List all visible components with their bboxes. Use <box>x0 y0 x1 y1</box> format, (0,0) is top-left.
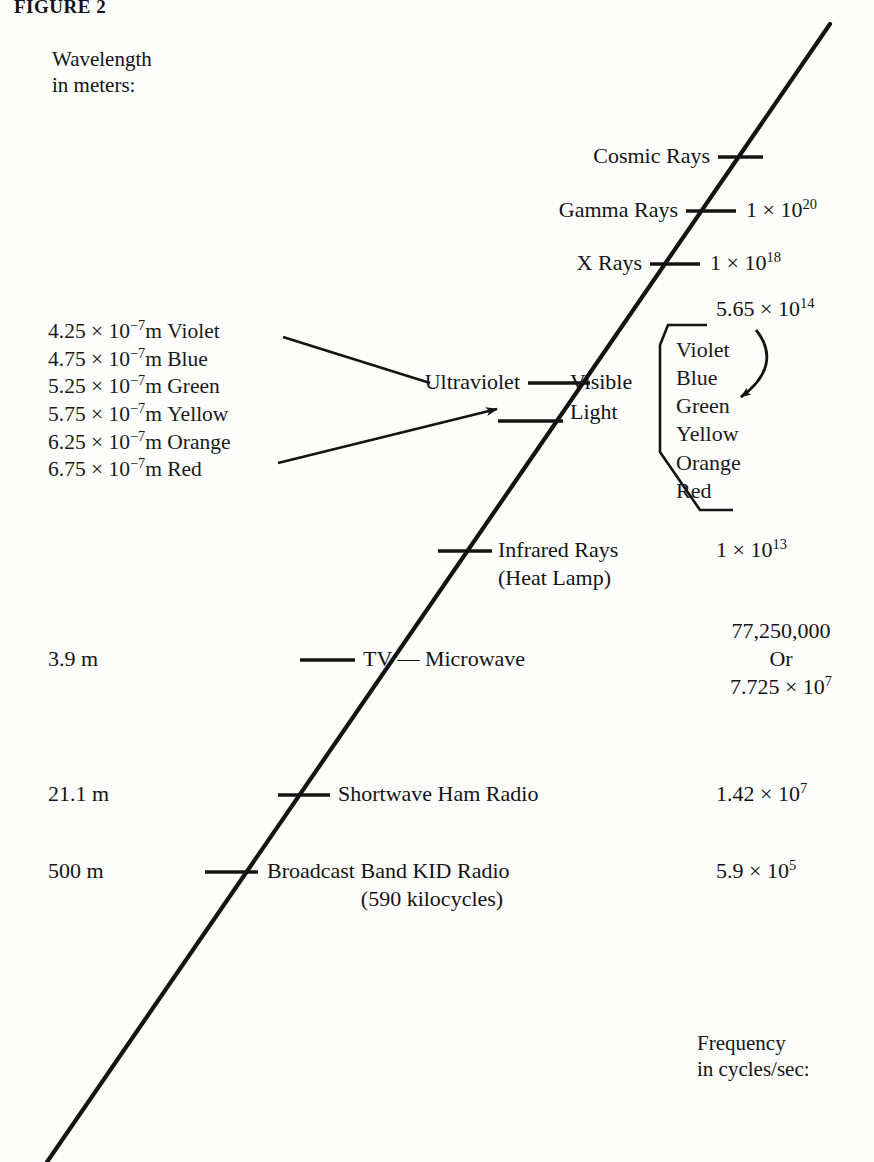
wavelength-row-yellow: 5.75 × 10−7m Yellow <box>48 401 231 429</box>
wavelength-blue-color: Blue <box>167 347 208 371</box>
wavelength-row-red: 6.75 × 10−7m Red <box>48 456 231 484</box>
spectrum-axis-line <box>47 24 830 1162</box>
wavelength-row-violet: 4.25 × 10−7m Violet <box>48 318 231 346</box>
wavelength-orange-exponent: −7 <box>130 427 145 443</box>
color-item-red: Red <box>676 477 741 505</box>
visible-light-color-list: Violet Blue Green Yellow Orange Red <box>676 336 741 505</box>
band-label-ultraviolet: Ultraviolet <box>250 369 520 395</box>
frequency-broadcast: 5.9 × 105 <box>716 858 796 884</box>
frequency-visible-light: 5.65 × 1014 <box>716 296 814 322</box>
frequency-broadcast-exponent: 5 <box>789 857 796 873</box>
wavelength-green-color: Green <box>167 374 220 398</box>
figure-canvas: FIGURE 2 Wavelengthin meters: Frequencyi… <box>0 0 874 1162</box>
frequency-gamma-rays-exponent: 20 <box>802 196 817 212</box>
wavelength-red-mantissa: 6.75 × 10 <box>48 457 130 481</box>
band-label-x-rays: X Rays <box>300 250 642 276</box>
band-sublabel-visible-light: Light <box>570 399 618 425</box>
wavelength-row-blue: 4.75 × 10−7m Blue <box>48 346 231 374</box>
frequency-axis-caption: Frequencyin cycles/sec: <box>697 1031 810 1082</box>
wavelength-green-exponent: −7 <box>130 372 145 388</box>
frequency-broadcast-mantissa: 5.9 × 10 <box>716 858 789 883</box>
wavelength-broadcast: 500 m <box>48 858 104 884</box>
spectrum-line-graphic <box>0 0 874 1162</box>
frequency-tv-microwave-mantissa: 7.725 × 10 <box>730 674 825 699</box>
wavelength-orange-unit: m <box>145 430 162 454</box>
color-item-green: Green <box>676 392 741 420</box>
wavelength-orange-mantissa: 6.25 × 10 <box>48 430 130 454</box>
frequency-tv-microwave-decimal: 77,250,000 <box>688 618 874 644</box>
band-label-broadcast: Broadcast Band KID Radio <box>267 858 510 884</box>
curved-arrow-frequency-to-green <box>741 330 767 397</box>
frequency-shortwave-exponent: 7 <box>800 780 807 796</box>
color-item-blue: Blue <box>676 364 741 392</box>
frequency-tv-microwave-scientific: 7.725 × 107 <box>688 674 874 700</box>
frequency-visible-light-mantissa: 5.65 × 10 <box>716 296 800 321</box>
frequency-gamma-rays: 1 × 1020 <box>746 197 817 223</box>
wavelength-yellow-color: Yellow <box>167 402 228 426</box>
band-sublabel-infrared: (Heat Lamp) <box>498 565 611 591</box>
wavelength-red-unit: m <box>145 457 162 481</box>
frequency-infrared: 1 × 1013 <box>716 537 787 563</box>
wavelength-green-mantissa: 5.25 × 10 <box>48 374 130 398</box>
wavelength-red-exponent: −7 <box>130 455 145 471</box>
wavelength-yellow-mantissa: 5.75 × 10 <box>48 402 130 426</box>
wavelength-blue-exponent: −7 <box>130 344 145 360</box>
wavelength-yellow-exponent: −7 <box>130 400 145 416</box>
color-item-violet: Violet <box>676 336 741 364</box>
wavelength-tv-microwave: 3.9 m <box>48 646 98 672</box>
band-label-gamma-rays: Gamma Rays <box>330 197 678 223</box>
color-item-yellow: Yellow <box>676 420 741 448</box>
frequency-tv-microwave-exponent: 7 <box>825 673 832 689</box>
wavelength-violet-color: Violet <box>167 319 219 343</box>
frequency-tv-microwave-or: Or <box>688 646 874 672</box>
wavelength-violet-exponent: −7 <box>130 317 145 333</box>
band-label-visible-light: Visible <box>570 369 632 395</box>
wavelength-axis-caption: Wavelengthin meters: <box>52 47 152 98</box>
band-sublabel-broadcast: (590 kilocycles) <box>267 886 597 912</box>
wavelength-blue-unit: m <box>145 347 162 371</box>
frequency-infrared-exponent: 13 <box>772 536 787 552</box>
wavelength-row-green: 5.25 × 10−7m Green <box>48 373 231 401</box>
frequency-x-rays: 1 × 1018 <box>710 250 781 276</box>
band-label-cosmic-rays: Cosmic Rays <box>360 143 710 169</box>
wavelength-orange-color: Orange <box>167 430 230 454</box>
wavelength-red-color: Red <box>167 457 202 481</box>
frequency-shortwave: 1.42 × 107 <box>716 781 807 807</box>
visible-light-wavelength-list: 4.25 × 10−7m Violet 4.75 × 10−7m Blue 5.… <box>48 318 231 484</box>
band-label-shortwave: Shortwave Ham Radio <box>338 781 538 807</box>
wavelength-row-orange: 6.25 × 10−7m Orange <box>48 429 231 457</box>
wavelength-violet-unit: m <box>145 319 162 343</box>
wavelength-violet-mantissa: 4.25 × 10 <box>48 319 130 343</box>
frequency-shortwave-mantissa: 1.42 × 10 <box>716 781 800 806</box>
wavelength-yellow-unit: m <box>145 402 162 426</box>
frequency-x-rays-mantissa: 1 × 10 <box>710 250 766 275</box>
frequency-x-rays-exponent: 18 <box>766 249 781 265</box>
frequency-gamma-rays-mantissa: 1 × 10 <box>746 197 802 222</box>
leader-arrow-red-to-visible <box>278 409 497 463</box>
frequency-infrared-mantissa: 1 × 10 <box>716 537 772 562</box>
wavelength-shortwave: 21.1 m <box>48 781 109 807</box>
figure-title: FIGURE 2 <box>14 0 106 18</box>
frequency-visible-light-exponent: 14 <box>800 295 815 311</box>
wavelength-blue-mantissa: 4.75 × 10 <box>48 347 130 371</box>
band-label-infrared: Infrared Rays <box>498 537 618 563</box>
wavelength-green-unit: m <box>145 374 162 398</box>
band-label-tv-microwave: TV — Microwave <box>363 646 525 672</box>
color-item-orange: Orange <box>676 449 741 477</box>
